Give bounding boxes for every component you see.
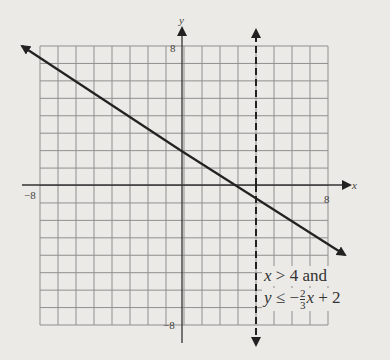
y-max-tick: 8	[170, 42, 176, 54]
x-max-tick: 8	[324, 193, 330, 205]
inequality-line-2: y ≤ −23x + 2	[262, 288, 343, 311]
y-axis-label: y	[179, 14, 184, 26]
x-min-tick: −8	[24, 189, 36, 201]
y-min-tick: −8	[163, 319, 175, 331]
inequality-line-1: x > 4 and	[262, 266, 329, 286]
fraction: 23	[300, 288, 306, 311]
x-axis-label: x	[352, 179, 357, 191]
